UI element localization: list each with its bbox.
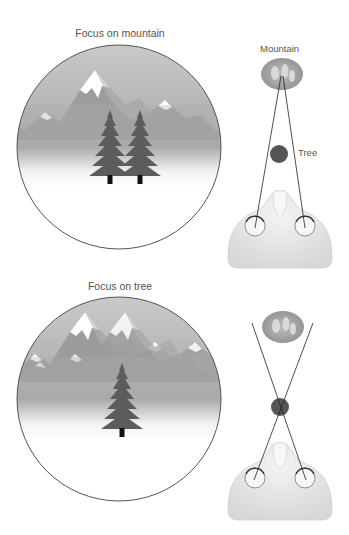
schematic-focus-mountain — [228, 58, 332, 268]
schematic-focus-tree — [228, 311, 332, 520]
diagram-canvas — [0, 0, 349, 535]
tree-blob-icon-2 — [271, 398, 289, 416]
tree-blob-icon — [270, 145, 288, 163]
view-circle-focus-mountain — [0, 45, 240, 249]
view-circle-focus-tree — [0, 297, 270, 501]
